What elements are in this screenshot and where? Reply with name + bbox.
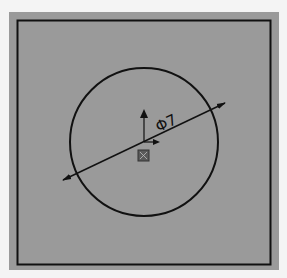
- sketch-canvas[interactable]: Φ7: [0, 0, 287, 278]
- fixed-constraint-icon: [138, 150, 149, 161]
